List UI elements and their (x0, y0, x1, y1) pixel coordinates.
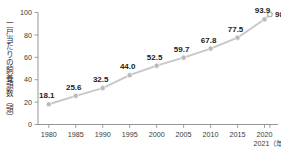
data-point-label: 32.5 (93, 75, 109, 84)
y-tick-label: 80 (24, 31, 32, 40)
data-point-label: 93.9 (255, 6, 271, 15)
y-tick-label: 20 (24, 98, 32, 107)
y-tick-label: 0 (28, 120, 32, 129)
y-tick-label: 100 (20, 8, 32, 17)
data-point-label: 52.5 (147, 53, 163, 62)
x-axis-tick-labels: 198019851990199520002005201020152020 (41, 130, 273, 139)
x-tick-label: 1985 (68, 130, 84, 139)
x-tick-label: 1995 (122, 130, 138, 139)
series-data-labels: 18.125.632.544.052.559.767.877.593.998.3 (39, 6, 281, 100)
y-tick-label: 60 (24, 53, 32, 62)
data-point-marker (73, 93, 78, 98)
y-axis-ticks (35, 13, 39, 125)
data-point-label: 18.1 (39, 91, 55, 100)
data-point-label: 67.8 (201, 36, 217, 45)
x-tick-label: 1980 (41, 130, 57, 139)
data-point-label: 98.3 (275, 10, 281, 19)
data-point-label: 59.7 (174, 45, 190, 54)
chart-container: 一戸当たりの飼養頭数（頭） 18.125.632.544.052.559.767… (0, 0, 281, 151)
x-tick-label: 1990 (95, 130, 111, 139)
data-point-label: 25.6 (66, 83, 82, 92)
data-point-marker (100, 86, 105, 91)
y-axis-tick-labels: 020406080100 (20, 8, 32, 129)
data-point-marker (262, 17, 267, 22)
data-point-label: 77.5 (228, 25, 244, 34)
x-axis-ticks (49, 125, 270, 129)
x-tick-label: 2020 (257, 130, 273, 139)
line-chart: 18.125.632.544.052.559.767.877.593.998.3… (0, 0, 281, 151)
data-point-label: 44.0 (120, 62, 136, 71)
data-point-marker (181, 55, 186, 60)
data-point-marker (46, 102, 51, 107)
data-point-marker (127, 73, 132, 78)
x-tick-label: 2010 (203, 130, 219, 139)
x-tick-label: 2005 (176, 130, 192, 139)
data-point-marker (154, 63, 159, 68)
data-point-marker (235, 35, 240, 40)
y-tick-label: 40 (24, 75, 32, 84)
data-point-marker (208, 46, 213, 51)
x-axis-year-suffix: 2021（年） (254, 139, 282, 148)
x-tick-label: 2015 (230, 130, 246, 139)
x-tick-label: 2000 (149, 130, 165, 139)
